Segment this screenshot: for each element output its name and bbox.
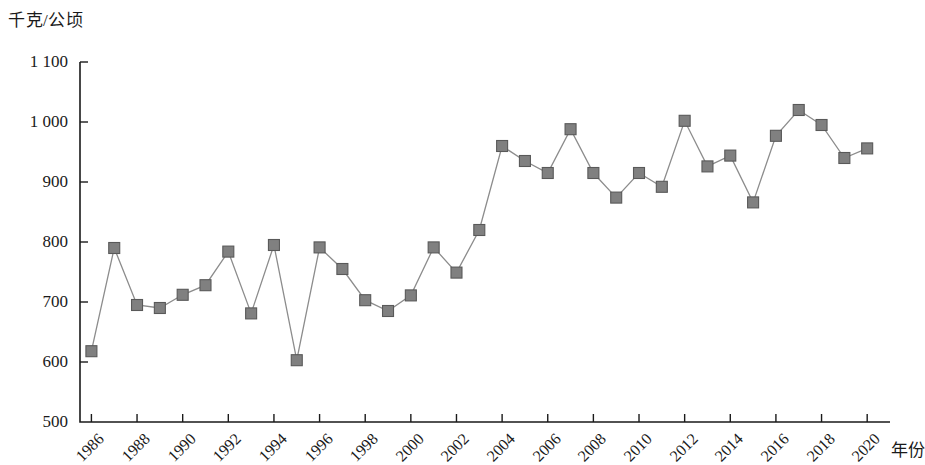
data-point-marker	[177, 289, 188, 300]
data-point-marker	[474, 225, 485, 236]
data-point-marker	[702, 161, 713, 172]
data-point-marker	[862, 143, 873, 154]
data-point-marker	[588, 168, 599, 179]
data-point-marker	[770, 130, 781, 141]
data-point-marker	[634, 168, 645, 179]
data-point-marker	[497, 141, 508, 152]
data-point-marker	[291, 355, 302, 366]
data-point-marker	[86, 346, 97, 357]
data-point-marker	[223, 246, 234, 257]
data-point-marker	[725, 150, 736, 161]
data-point-marker	[337, 264, 348, 275]
chart-axes	[80, 62, 890, 422]
data-point-marker	[656, 181, 667, 192]
data-point-marker	[154, 303, 165, 314]
data-point-marker	[565, 124, 576, 135]
data-point-marker	[200, 280, 211, 291]
data-point-marker	[360, 295, 371, 306]
data-point-marker	[679, 115, 690, 126]
data-point-marker	[314, 242, 325, 253]
data-point-marker	[816, 120, 827, 131]
data-point-markers	[86, 105, 873, 366]
data-point-marker	[383, 306, 394, 317]
data-point-marker	[405, 290, 416, 301]
data-point-marker	[611, 192, 622, 203]
data-point-marker	[542, 168, 553, 179]
data-point-marker	[519, 156, 530, 167]
data-point-marker	[246, 308, 257, 319]
data-point-marker	[132, 300, 143, 311]
data-point-marker	[748, 197, 759, 208]
data-point-marker	[428, 242, 439, 253]
data-point-marker	[268, 240, 279, 251]
data-point-marker	[839, 153, 850, 164]
data-point-marker	[793, 105, 804, 116]
data-point-marker	[109, 243, 120, 254]
data-point-marker	[451, 267, 462, 278]
